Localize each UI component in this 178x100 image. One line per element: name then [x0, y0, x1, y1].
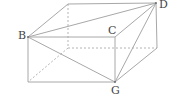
edge-top-back — [68, 3, 156, 4]
diagonal-D-G — [115, 3, 156, 82]
cuboid-diagram: B C D G — [0, 0, 178, 100]
hidden-edge-bottom-left-depth — [28, 48, 68, 82]
diagonal-B-G — [28, 37, 115, 82]
vertex-D-dot — [155, 2, 157, 4]
edge-right-bottom — [115, 48, 157, 82]
vertex-B-dot — [27, 36, 29, 38]
label-B: B — [18, 29, 26, 42]
diagonal-B-D — [28, 3, 156, 37]
label-D: D — [159, 0, 168, 11]
vertex-G-dot — [114, 81, 116, 83]
label-G: G — [111, 84, 120, 97]
label-C: C — [108, 24, 116, 37]
edge-right-back-vertical — [156, 3, 157, 48]
